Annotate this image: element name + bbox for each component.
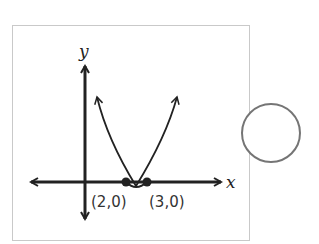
y-axis-label: y	[78, 41, 89, 61]
x-axis-label: x	[226, 172, 236, 192]
point-label-3-0: (3,0)	[149, 193, 185, 211]
parabola-curve	[97, 97, 177, 187]
point-label-2-0: (2,0)	[91, 193, 127, 211]
point-2-0	[122, 178, 131, 187]
graph-canvas: x y (2,0) (3,0)	[0, 0, 319, 244]
point-3-0	[143, 178, 152, 187]
answer-radio-button[interactable]	[242, 104, 300, 162]
